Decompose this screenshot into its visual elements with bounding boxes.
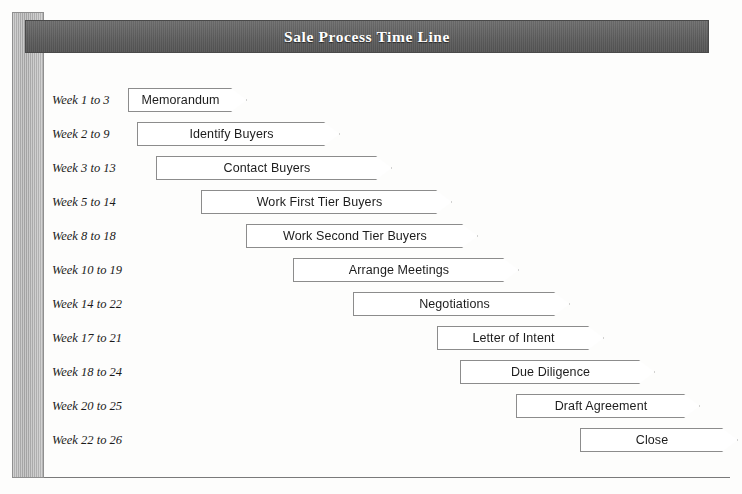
timeline-row: Week 14 to 22Negotiations [0,292,742,316]
task-label: Letter of Intent [472,331,568,345]
week-range-label: Week 5 to 14 [52,190,164,214]
week-range-label: Week 3 to 13 [52,156,164,180]
timeline-row: Week 3 to 13Contact Buyers [0,156,742,180]
timeline-row: Week 20 to 25Draft Agreement [0,394,742,418]
task-label: Identify Buyers [189,127,287,141]
task-arrow[interactable]: Letter of Intent [437,326,604,350]
task-label: Due Diligence [511,365,604,379]
week-range-label: Week 20 to 25 [52,394,164,418]
task-arrow[interactable]: Arrange Meetings [293,258,519,282]
task-arrow[interactable]: Contact Buyers [156,156,392,180]
week-range-label: Week 14 to 22 [52,292,164,316]
task-label: Arrange Meetings [349,263,463,277]
timeline-diagram: Sale Process Time Line Week 1 to 3Memora… [0,0,742,494]
timeline-row: Week 1 to 3Memorandum [0,88,742,112]
timeline-row: Week 22 to 26Close [0,428,742,452]
page-title: Sale Process Time Line [284,28,450,46]
week-range-label: Week 22 to 26 [52,428,164,452]
task-label: Draft Agreement [555,399,662,413]
task-label: Negotiations [419,297,504,311]
timeline-row: Week 2 to 9Identify Buyers [0,122,742,146]
task-arrow[interactable]: Negotiations [353,292,570,316]
task-arrow[interactable]: Memorandum [128,88,247,112]
task-arrow[interactable]: Due Diligence [460,360,655,384]
timeline-row: Week 18 to 24Due Diligence [0,360,742,384]
timeline-row: Week 10 to 19Arrange Meetings [0,258,742,282]
task-arrow[interactable]: Draft Agreement [516,394,700,418]
task-label: Work First Tier Buyers [257,195,397,209]
week-range-label: Week 10 to 19 [52,258,164,282]
task-label: Contact Buyers [224,161,325,175]
week-range-label: Week 18 to 24 [52,360,164,384]
timeline-row: Week 17 to 21Letter of Intent [0,326,742,350]
timeline-row: Week 8 to 18Work Second Tier Buyers [0,224,742,248]
week-range-label: Week 17 to 21 [52,326,164,350]
timeline-row: Week 5 to 14Work First Tier Buyers [0,190,742,214]
bottom-divider [44,477,730,478]
week-range-label: Week 8 to 18 [52,224,164,248]
task-label: Memorandum [141,93,233,107]
task-arrow[interactable]: Work First Tier Buyers [201,190,452,214]
task-arrow[interactable]: Work Second Tier Buyers [246,224,478,248]
task-label: Close [636,433,682,447]
task-label: Work Second Tier Buyers [283,229,441,243]
task-arrow[interactable]: Close [580,428,738,452]
title-banner: Sale Process Time Line [25,20,709,53]
task-arrow[interactable]: Identify Buyers [137,122,340,146]
